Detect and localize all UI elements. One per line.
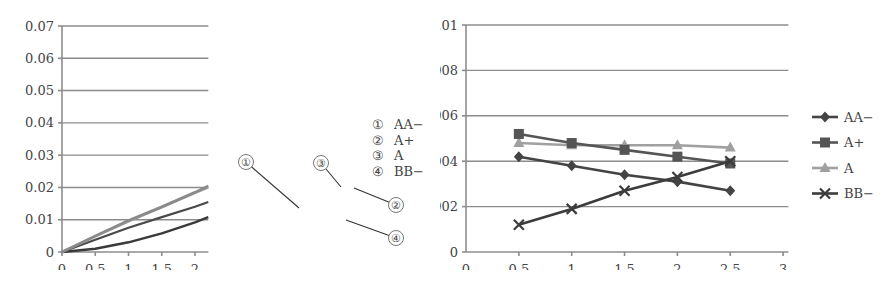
legend-item: ④BB− — [372, 164, 424, 179]
legend-number: ③ — [372, 148, 384, 163]
y-tick-label: 0.004 — [440, 154, 458, 169]
legend-label: A — [393, 148, 404, 163]
legend-item: ①AA− — [372, 117, 424, 132]
left-chart-svg: 0.070.060.050.040.030.020.01000.511.52①③… — [0, 0, 440, 270]
legend-label: A+ — [393, 133, 414, 148]
diamond-marker-icon — [725, 185, 735, 196]
x-tick-label: 2.5 — [720, 262, 741, 270]
left-legend: ①AA−②A+③A④BB− — [372, 117, 424, 179]
right-y-tick-labels: 0.010.0080.0060.0040.0020 — [440, 18, 458, 260]
square-marker-icon — [672, 152, 682, 162]
left-gridlines — [62, 26, 208, 220]
x-tick-label: 2 — [191, 262, 199, 270]
series-line-bb-minus — [62, 217, 208, 252]
legend-number: ② — [372, 133, 384, 148]
y-tick-label: 0 — [450, 245, 458, 260]
callout-aa-minus-label: ① — [241, 156, 251, 169]
y-tick-label: 0.002 — [440, 199, 458, 214]
callout-a-plus-label: ② — [391, 199, 401, 212]
legend-diamond-icon — [820, 112, 830, 123]
callout-a-label: ③ — [316, 157, 326, 170]
left-line-chart: 0.070.060.050.040.030.020.01000.511.52①③… — [0, 0, 440, 270]
series-x — [514, 156, 735, 230]
x-tick-label: 2 — [673, 262, 681, 270]
left-y-tick-labels: 0.070.060.050.040.030.020.010 — [25, 19, 54, 260]
legend-number: ① — [372, 117, 384, 132]
series-line-a-plus — [62, 186, 208, 252]
legend-item: BB− — [812, 186, 874, 201]
legend-item: ②A+ — [372, 133, 414, 148]
legend-item: A+ — [812, 135, 864, 150]
x-tick-label: 1 — [124, 262, 132, 270]
legend-square-icon — [820, 138, 830, 148]
left-x-tick-labels: 00.511.52 — [58, 262, 199, 270]
y-tick-label: 0.02 — [25, 180, 54, 195]
left-axes — [58, 26, 208, 256]
x-tick-label: 0 — [58, 262, 66, 270]
legend-item: AA− — [812, 110, 874, 125]
y-tick-label: 0 — [46, 245, 54, 260]
legend-label: AA− — [843, 110, 874, 125]
legend-item: ③A — [372, 148, 404, 163]
y-tick-label: 0.05 — [25, 83, 54, 98]
diamond-marker-icon — [620, 169, 630, 180]
legend-label: A — [843, 161, 854, 176]
x-tick-label: 1.5 — [614, 262, 635, 270]
y-tick-label: 0.01 — [440, 18, 458, 33]
x-tick-label: 1 — [568, 262, 576, 270]
callout-bb-minus-label: ④ — [391, 232, 401, 245]
callout-aa-minus-leader-line — [246, 162, 299, 208]
legend-label: BB− — [844, 186, 874, 201]
x-tick-label: 3 — [779, 262, 787, 270]
x-tick-label: 0 — [462, 262, 470, 270]
y-tick-label: 0.03 — [25, 148, 54, 163]
x-tick-label: 0.5 — [509, 262, 530, 270]
square-marker-icon — [567, 138, 577, 148]
y-tick-label: 0.006 — [440, 108, 458, 123]
y-tick-label: 0.008 — [440, 63, 458, 78]
right-gridlines — [466, 25, 788, 207]
left-series-lines — [62, 186, 208, 252]
series-line-aa-minus — [62, 202, 208, 252]
right-chart-svg: 0.010.0080.0060.0040.002000.511.522.53AA… — [440, 0, 894, 270]
right-x-tick-labels: 00.511.522.53 — [462, 262, 787, 270]
y-tick-label: 0.01 — [25, 212, 54, 227]
x-tick-label: 0.5 — [85, 262, 106, 270]
y-tick-label: 0.06 — [25, 51, 54, 66]
square-marker-icon — [620, 145, 630, 155]
y-tick-label: 0.04 — [25, 115, 54, 130]
right-legend: AA−A+ABB− — [812, 110, 874, 202]
legend-label: AA− — [393, 117, 424, 132]
right-line-chart: 0.010.0080.0060.0040.002000.511.522.53AA… — [440, 0, 894, 270]
y-tick-label: 0.07 — [25, 19, 54, 34]
x-tick-label: 1.5 — [151, 262, 172, 270]
legend-label: BB− — [394, 164, 424, 179]
square-marker-icon — [514, 129, 524, 139]
legend-label: A+ — [843, 135, 864, 150]
legend-item: A — [812, 161, 854, 176]
right-series — [513, 129, 735, 230]
legend-number: ④ — [372, 164, 384, 179]
